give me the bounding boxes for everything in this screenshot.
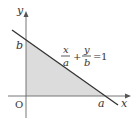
y-intercept-label: b xyxy=(16,39,23,52)
y-axis-label: y xyxy=(16,4,24,17)
y-axis-arrow-icon xyxy=(24,11,29,17)
x-intercept-label: a xyxy=(98,97,105,110)
origin-label: O xyxy=(15,99,23,110)
intercept-form-diagram: y x O b a x a + y b = 1 xyxy=(0,0,137,119)
eq-term2-numerator: y xyxy=(83,44,90,55)
eq-term1-numerator: x xyxy=(63,44,69,55)
eq-plus: + xyxy=(73,51,81,62)
eq-term1-denominator: a xyxy=(63,57,69,68)
x-axis-label: x xyxy=(121,97,128,110)
eq-term2-denominator: b xyxy=(84,57,90,68)
equation: x a + y b = 1 xyxy=(61,44,107,68)
eq-rhs: 1 xyxy=(101,51,107,62)
